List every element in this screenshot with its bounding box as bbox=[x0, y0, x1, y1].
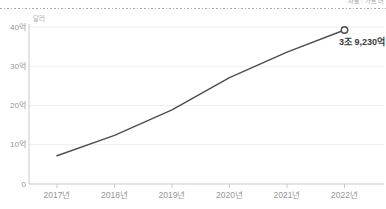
x-axis-tick-label: 2020년 bbox=[216, 190, 243, 200]
x-axis-tick-label: 2017년 bbox=[44, 190, 71, 200]
chart-page: 자료: 가트너 010억20억30억40억2017년2018년2019년2020… bbox=[0, 0, 386, 209]
trend-line bbox=[57, 30, 345, 156]
x-axis-tick-label: 2019년 bbox=[159, 190, 186, 200]
x-axis-tick-label: 2022년 bbox=[331, 190, 358, 200]
y-axis-tick-label: 20억 bbox=[10, 100, 26, 110]
y-axis-unit-label: 달러 bbox=[33, 14, 45, 23]
annual-revenue-line-chart: 010억20억30억40억2017년2018년2019년2020년2021년20… bbox=[0, 0, 386, 209]
x-axis-tick-label: 2018년 bbox=[101, 190, 128, 200]
y-axis-tick-label: 10억 bbox=[10, 139, 26, 149]
y-axis-tick-label: 40억 bbox=[10, 22, 26, 32]
x-axis-tick-label: 2021년 bbox=[274, 190, 301, 200]
end-point-marker bbox=[341, 27, 347, 33]
y-axis-tick-label: 0 bbox=[22, 180, 27, 189]
end-value-label: 3조 9,230억 bbox=[339, 36, 385, 47]
y-axis-tick-label: 30억 bbox=[10, 61, 26, 71]
